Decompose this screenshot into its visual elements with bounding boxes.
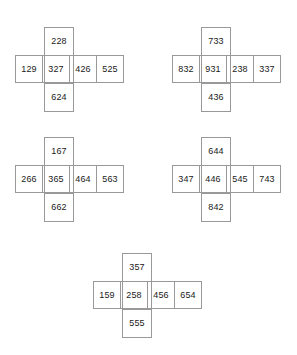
cross-row: 347446545743 [172, 165, 281, 193]
cross-cell-row-2: 931 [199, 55, 227, 83]
cross-cell-row-4: 337 [253, 55, 281, 83]
cross-cell-top: 733 [201, 27, 231, 56]
cross-cell-row-4: 654 [174, 281, 202, 309]
cross-cell-top: 644 [201, 137, 231, 166]
cross-row: 129327426525 [15, 55, 124, 83]
cross-cell-bottom: 436 [201, 83, 231, 112]
cross-cell-row-2: 327 [42, 55, 70, 83]
cross-cell-bottom: 555 [122, 309, 152, 338]
cross-cell-row-3: 545 [226, 165, 254, 193]
cross-cell-row-3: 238 [226, 55, 254, 83]
cross-cell-row-2: 446 [199, 165, 227, 193]
cross-row: 159258456654 [93, 281, 202, 309]
cross-row: 832931238337 [172, 55, 281, 83]
cross-cell-row-2: 365 [42, 165, 70, 193]
cross-cell-row-1: 832 [172, 55, 200, 83]
cross-cell-row-3: 464 [69, 165, 97, 193]
cross-cell-top: 357 [122, 253, 152, 282]
cross-cell-top: 228 [44, 27, 74, 56]
cross-cell-row-1: 129 [15, 55, 43, 83]
cross-cell-row-2: 258 [120, 281, 148, 309]
cross-cell-row-4: 743 [253, 165, 281, 193]
cross-cell-bottom: 624 [44, 83, 74, 112]
cross-cell-top: 167 [44, 137, 74, 166]
cross-cell-bottom: 842 [201, 193, 231, 222]
cross-cell-bottom: 662 [44, 193, 74, 222]
cross-cell-row-4: 563 [96, 165, 124, 193]
cross-cell-row-1: 266 [15, 165, 43, 193]
cross-row: 266365464563 [15, 165, 124, 193]
cross-cell-row-4: 525 [96, 55, 124, 83]
cross-cell-row-1: 347 [172, 165, 200, 193]
cross-cell-row-3: 426 [69, 55, 97, 83]
cross-cell-row-1: 159 [93, 281, 121, 309]
cross-cell-row-3: 456 [147, 281, 175, 309]
